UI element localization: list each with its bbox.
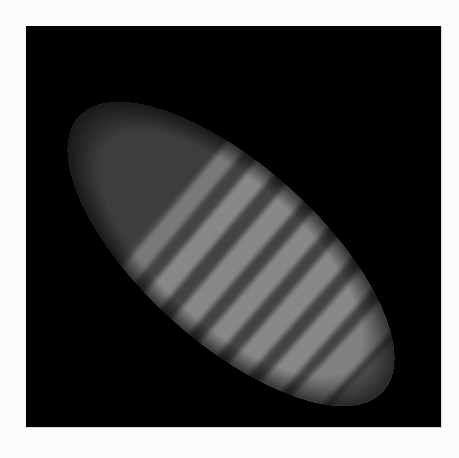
embryo [26,43,441,427]
embryo-image [26,26,441,427]
micrograph-frame [26,26,442,428]
